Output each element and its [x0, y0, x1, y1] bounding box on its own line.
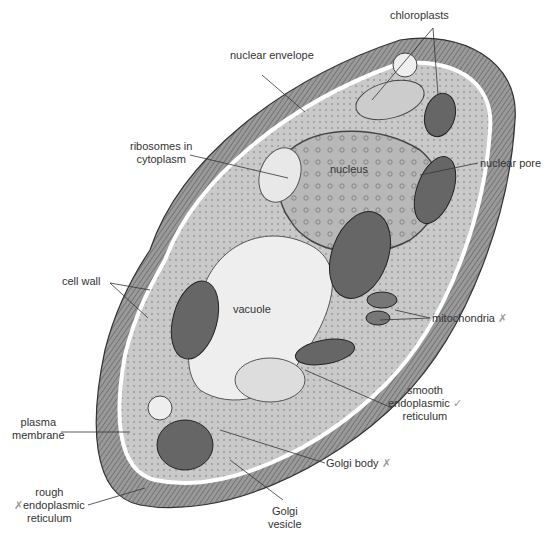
label-nuclear-pore: nuclear pore: [480, 157, 541, 170]
label-ribosomes: ribosomes in cytoplasm: [130, 140, 192, 166]
label-smooth-er: smooth endoplasmic ✓ reticulum: [388, 384, 462, 423]
label-golgi-vesicle: Golgi vesicle: [268, 505, 302, 531]
label-nucleus: nucleus: [330, 163, 368, 176]
label-rough-er: rough ✗endoplasmic reticulum: [14, 486, 85, 525]
label-vacuole: vacuole: [233, 303, 271, 316]
label-golgi-body: Golgi body ✗: [326, 457, 391, 470]
label-nuclear-envelope: nuclear envelope: [230, 49, 314, 62]
label-mitochondria: mitochondria ✗: [432, 312, 507, 325]
label-chloroplasts: chloroplasts: [390, 9, 449, 22]
label-plasma-membrane: plasma membrane: [12, 416, 65, 442]
label-cell-wall: cell wall: [62, 275, 101, 288]
cell-illustration: [0, 0, 552, 538]
